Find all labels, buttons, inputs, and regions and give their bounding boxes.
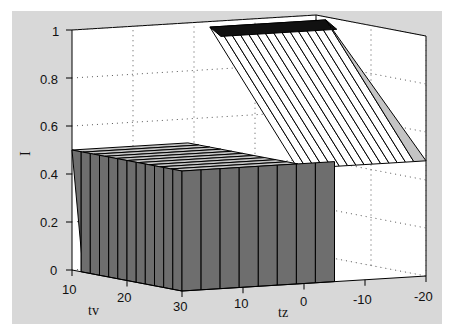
y-tick-label: -10 xyxy=(353,292,372,307)
surface-strip-side xyxy=(296,163,315,284)
surface-strip-front xyxy=(127,161,136,283)
surface-strip-side xyxy=(258,165,277,286)
z-tick-label: 1 xyxy=(52,24,59,39)
surface-strip-front xyxy=(81,152,90,274)
surface-strip-side xyxy=(201,169,220,290)
z-axis-label: I xyxy=(18,151,33,156)
x-axis-label: tv xyxy=(88,303,99,318)
y-tick-label: 0 xyxy=(300,294,307,309)
x-tick-label: 20 xyxy=(117,290,131,305)
y-tick-label: -20 xyxy=(414,289,433,304)
surface-strip-front xyxy=(136,162,145,284)
surface-strip-front xyxy=(118,159,127,281)
surface-strip-side xyxy=(315,162,334,283)
z-tick-label: 0.6 xyxy=(40,119,58,134)
surface-strip-side xyxy=(277,164,296,285)
surface-strip-side xyxy=(220,168,239,289)
z-tick-label: 0.4 xyxy=(40,167,58,182)
y-tick-label: 10 xyxy=(234,296,248,311)
surface-strip-front xyxy=(173,169,182,291)
surface-strip-front xyxy=(155,166,164,288)
surface-strip-front xyxy=(109,157,118,279)
z-tick-label: 0.2 xyxy=(40,215,58,230)
x-tick-label: 30 xyxy=(173,299,187,314)
surface-strip-front xyxy=(145,164,154,286)
surface-strip-front xyxy=(90,154,99,276)
surface-strip-side xyxy=(239,166,258,287)
figure: 0 0.2 0.4 0.6 0.8 1 10 20 30 10 0 -10 -2… xyxy=(0,0,455,333)
y-axis-label: tz xyxy=(278,305,288,320)
surface-strip-front xyxy=(164,168,173,290)
surface-strip-side xyxy=(182,170,201,291)
z-tick-label: 0.8 xyxy=(40,72,58,87)
surface-plot: 0 0.2 0.4 0.6 0.8 1 10 20 30 10 0 -10 -2… xyxy=(0,0,455,333)
x-tick-label: 10 xyxy=(62,282,76,297)
surface-strip-front xyxy=(100,155,109,277)
z-tick-label: 0 xyxy=(50,263,57,278)
